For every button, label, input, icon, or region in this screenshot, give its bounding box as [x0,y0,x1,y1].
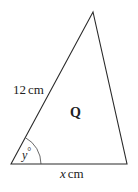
triangle-name-label: Q [70,105,81,120]
angle-label: y° [21,146,31,162]
side-left-label: 12cm [13,82,44,97]
triangle-diagram: 12cm Q y° xcm [0,0,138,192]
side-base-label: xcm [59,166,84,181]
